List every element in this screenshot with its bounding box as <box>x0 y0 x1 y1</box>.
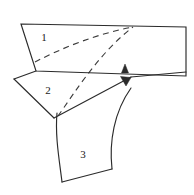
region-3-label: 3 <box>80 148 86 160</box>
figure-canvas: 1 2 3 <box>0 0 194 195</box>
region-1-label: 1 <box>41 31 47 43</box>
region-2-label: 2 <box>45 84 51 96</box>
geometry-diagram: 1 2 3 <box>0 0 194 195</box>
